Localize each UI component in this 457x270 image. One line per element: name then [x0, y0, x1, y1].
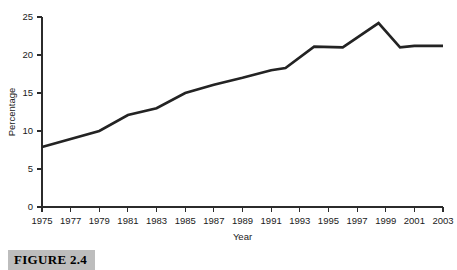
x-tick-label: 1999: [375, 215, 396, 226]
y-tick-label: 5: [28, 163, 33, 174]
y-tick-label: 10: [22, 125, 33, 136]
x-tick-label: 1997: [347, 215, 368, 226]
y-tick-label: 20: [22, 49, 33, 60]
x-tick-label: 1977: [60, 215, 81, 226]
x-tick-label: 1975: [31, 215, 52, 226]
data-series-group: [42, 23, 443, 147]
x-tick-label: 1983: [146, 215, 167, 226]
x-tick-label: 1979: [89, 215, 110, 226]
y-axis-title: Percentage: [6, 88, 17, 137]
x-tick-label: 1981: [117, 215, 138, 226]
line-chart: 0510152025 19751977197919811983198519871…: [0, 0, 457, 245]
y-axis: 0510152025: [22, 11, 42, 212]
x-tick-label: 1993: [289, 215, 310, 226]
x-axis-title: Year: [233, 231, 252, 242]
x-tick-label: 2003: [432, 215, 453, 226]
x-tick-label: 2001: [404, 215, 425, 226]
x-tick-label: 1995: [318, 215, 339, 226]
y-tick-label: 15: [22, 87, 33, 98]
x-tick-label: 1989: [232, 215, 253, 226]
x-tick-label: 1987: [203, 215, 224, 226]
data-line-percentage: [42, 23, 443, 147]
chart-plot-area: 0510152025 19751977197919811983198519871…: [0, 0, 457, 245]
y-tick-label: 0: [28, 201, 33, 212]
y-tick-label: 25: [22, 11, 33, 22]
x-tick-label: 1991: [261, 215, 282, 226]
figure-caption: FIGURE 2.4: [8, 250, 95, 270]
x-axis: 1975197719791981198319851987198919911993…: [31, 207, 453, 226]
x-tick-label: 1985: [175, 215, 196, 226]
